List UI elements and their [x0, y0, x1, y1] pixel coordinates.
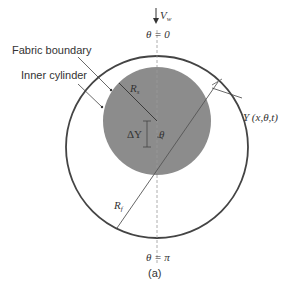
- velocity-label: Vw: [160, 9, 172, 23]
- delta-y-label: ΔY: [127, 128, 142, 140]
- rf-label: Rf: [113, 199, 124, 213]
- fabric-boundary-dot: [110, 89, 112, 91]
- y-func-label: Y (x,θ,t): [243, 111, 278, 124]
- fabric-boundary-label: Fabric boundary: [12, 44, 92, 56]
- velocity-arrow-head: [153, 18, 159, 24]
- diagram: Vw θ = 0 Fabric boundary Inner cylinder …: [0, 0, 289, 297]
- theta-pi-label: θ = π: [146, 251, 170, 263]
- theta-zero-label: θ = 0: [146, 28, 170, 40]
- figure-caption: (a): [148, 267, 161, 279]
- inner-cylinder-label: Inner cylinder: [21, 69, 87, 81]
- inner-cylinder-dot: [101, 106, 103, 108]
- theta-label: θ: [159, 128, 165, 140]
